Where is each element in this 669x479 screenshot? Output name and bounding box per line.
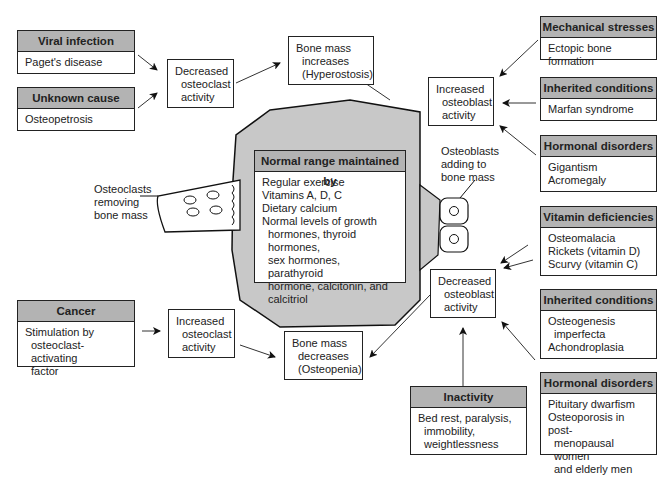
cause-line: Paget's disease: [25, 56, 127, 69]
cause-mechanical-stresses: Mechanical stresses Ectopic bone formati…: [540, 16, 657, 60]
cause-line: Bed rest, paralysis,: [418, 412, 519, 425]
cause-inherited-marfan: Inherited conditions Marfan syndrome: [540, 77, 657, 121]
factor-line: hormones, thyroid hormones,: [262, 228, 398, 254]
cause-header: Inherited conditions: [541, 78, 656, 99]
osteoclasts-label: Osteoclasts removing bone mass: [94, 183, 151, 222]
process-line: activity: [438, 301, 488, 314]
cause-header: Hormonal disorders: [541, 373, 656, 394]
outcome-line: (Hyperostosis): [296, 68, 366, 81]
process-line: Increased: [176, 315, 227, 328]
cause-header: Hormonal disorders: [541, 136, 656, 157]
cause-line: imperfecta: [548, 328, 649, 341]
osteoid-layer: [420, 185, 440, 270]
cause-line: Achondroplasia: [548, 341, 649, 354]
cause-inactivity: Inactivity Bed rest, paralysis, immobili…: [410, 386, 527, 455]
process-line: activity: [175, 91, 226, 104]
process-line: Decreased: [175, 65, 226, 78]
cause-line: factor: [25, 365, 127, 378]
cause-line: Ectopic bone formation: [548, 42, 649, 68]
cause-line: Acromegaly: [548, 174, 649, 187]
cause-inherited-decrease: Inherited conditions Osteogenesis imperf…: [540, 289, 657, 359]
osteoblasts-label: Osteoblasts adding to bone mass: [441, 145, 499, 184]
factor-line: Regular exercise: [262, 176, 398, 189]
cause-header: Viral infection: [18, 31, 134, 52]
cause-header: Inactivity: [411, 387, 526, 408]
factor-line: hormone, calcitonin, and: [262, 280, 398, 293]
cause-line: Rickets (vitamin D): [548, 245, 649, 258]
outcome-line: decreases: [292, 350, 355, 363]
factor-line: Vitamins A, D, C: [262, 189, 398, 202]
cause-line: Osteogenesis: [548, 315, 649, 328]
normal-range-header: Normal range maintained by: [255, 151, 405, 172]
cause-hormonal-decrease: Hormonal disorders Pituitary dwarfism Os…: [540, 372, 657, 455]
cause-hormonal-increase: Hormonal disorders Gigantism Acromegaly: [540, 135, 657, 192]
process-line: activity: [436, 109, 486, 122]
cause-viral-infection: Viral infection Paget's disease: [17, 30, 135, 74]
cause-line: menopausal women: [548, 437, 649, 463]
cause-line: Stimulation by: [25, 326, 127, 339]
decreased-osteoclast-box: Decreased osteoclast activity: [167, 59, 234, 108]
osteoclast-cell: [157, 180, 240, 232]
cause-cancer: Cancer Stimulation by osteoclast-activat…: [17, 300, 135, 367]
process-line: Increased: [436, 83, 486, 96]
factor-line: calcitriol: [262, 293, 398, 306]
process-line: osteoclast: [176, 328, 227, 341]
cause-vitamin-deficiencies: Vitamin deficiencies Osteomalacia Ricket…: [540, 206, 657, 276]
increased-osteoclast-box: Increased osteoclast activity: [168, 309, 235, 358]
process-line: osteoblast: [436, 96, 486, 109]
cause-line: Marfan syndrome: [548, 103, 649, 116]
process-line: osteoblast: [438, 288, 488, 301]
cause-line: Gigantism: [548, 161, 649, 174]
outcome-line: Bone mass: [296, 42, 366, 55]
cause-header: Vitamin deficiencies: [541, 207, 656, 228]
outcome-line: increases: [296, 55, 366, 68]
bone-mass-increases-box: Bone mass increases (Hyperostosis): [288, 36, 374, 85]
cause-line: Scurvy (vitamin C): [548, 258, 649, 271]
normal-range-box: Normal range maintained by Regular exerc…: [254, 150, 406, 283]
bone-mass-decreases-box: Bone mass decreases (Osteopenia): [284, 331, 363, 380]
decreased-osteoblast-box: Decreased osteoblast activity: [430, 269, 496, 318]
outcome-line: Bone mass: [292, 337, 355, 350]
cause-line: Osteopetrosis: [25, 113, 127, 126]
cause-header: Unknown cause: [18, 88, 134, 109]
cause-header: Mechanical stresses: [541, 17, 656, 38]
cause-line: osteoclast-activating: [25, 339, 127, 365]
increased-osteoblast-box: Increased osteoblast activity: [428, 77, 494, 126]
cause-line: Pituitary dwarfism: [548, 398, 649, 411]
process-line: activity: [176, 341, 227, 354]
cause-line: Osteoporosis in post-: [548, 411, 649, 437]
cause-unknown: Unknown cause Osteopetrosis: [17, 87, 135, 131]
cause-line: weightlessness: [418, 438, 519, 451]
process-line: osteoclast: [175, 78, 226, 91]
cause-line: and elderly men: [548, 463, 649, 476]
factor-line: Dietary calcium: [262, 202, 398, 215]
outcome-line: (Osteopenia): [292, 363, 355, 376]
cause-header: Cancer: [18, 301, 134, 322]
cause-header: Inherited conditions: [541, 290, 656, 311]
cause-line: immobility,: [418, 425, 519, 438]
cause-line: Osteomalacia: [548, 232, 649, 245]
factor-line: sex hormones, parathyroid: [262, 254, 398, 280]
factor-line: Normal levels of growth: [262, 215, 398, 228]
process-line: Decreased: [438, 275, 488, 288]
